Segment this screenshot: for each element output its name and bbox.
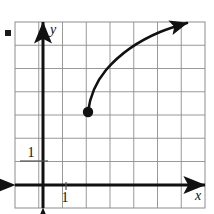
closed-endpoint-dot — [83, 107, 93, 117]
item-bullet-icon — [5, 30, 11, 36]
tick-label-y-one: 1 — [28, 145, 35, 160]
graph-figure: x y 1 1 — [0, 0, 214, 214]
tick-label-x-one: 1 — [62, 190, 69, 205]
figure-canvas: x y 1 1 — [0, 0, 214, 214]
x-axis-label: x — [194, 188, 202, 203]
y-axis-label: y — [48, 22, 57, 37]
